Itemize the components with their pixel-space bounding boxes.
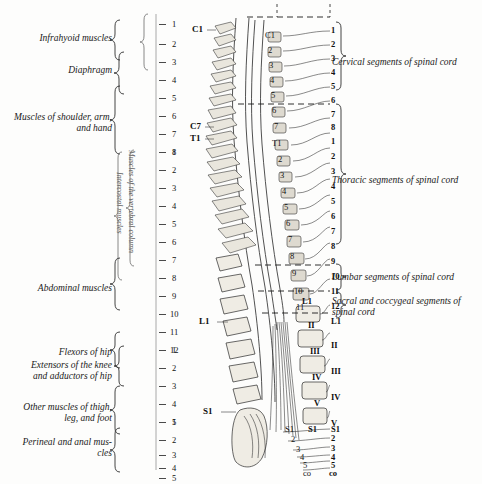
right-sacral-2: 2	[331, 433, 335, 443]
tick-c1	[159, 24, 166, 25]
tick-t11	[159, 332, 166, 333]
ruler-t4: 4	[172, 201, 176, 211]
right-thoracic-11: 11	[331, 286, 339, 296]
right-thoracic-12: 12	[331, 301, 340, 311]
spine-illustration	[206, 18, 327, 467]
tick-s1	[159, 422, 166, 423]
ruler-c7: 7	[172, 129, 176, 139]
right-cervical-8: 8	[331, 122, 335, 132]
right-cervical-7: 7	[331, 109, 335, 119]
ruler-t1: 1	[172, 147, 176, 157]
vertebra-label-iii: III	[310, 346, 320, 356]
cord-label-t7: 7	[288, 234, 292, 244]
ruler-c1: 1	[172, 19, 176, 29]
ruler-t6: 6	[172, 237, 176, 247]
cord-label-t3: 3	[280, 170, 284, 180]
vertebra-label-ii: II	[308, 320, 315, 330]
right-thoracic-10: 10	[331, 271, 340, 281]
ruler-t5: 5	[172, 219, 176, 229]
spine-callout-t1: T1	[190, 133, 201, 143]
right-thoracic-8: 8	[331, 241, 335, 251]
vertebra-label-v: V	[314, 398, 320, 408]
ruler-l3: 3	[172, 381, 176, 391]
tick-t3	[159, 188, 166, 189]
spine-callout-l1: L1	[199, 316, 210, 326]
right-thoracic-3: 3	[331, 166, 335, 176]
right-sacral-co: co	[329, 468, 337, 478]
cord-label-c4: 4	[270, 75, 274, 85]
cord-label-c7: 7	[274, 121, 278, 131]
right-cervical-1: 1	[331, 25, 335, 35]
spine-callout-c7: C7	[190, 121, 201, 131]
ruler-c6: 6	[172, 111, 176, 121]
right-lumbar-iii: III	[331, 366, 341, 376]
cord-label-c3: 3	[269, 60, 273, 70]
ruler-c4: 4	[172, 75, 176, 85]
right-cervical-4: 4	[331, 67, 335, 77]
ruler-l2: 2	[172, 363, 176, 373]
right-thoracic-7: 7	[331, 226, 335, 236]
ruler-t8: 8	[172, 273, 176, 283]
ruler-t11: 11	[170, 327, 178, 337]
spine-callout-c1: C1	[192, 24, 203, 34]
tick-t8	[159, 278, 166, 279]
cord-label-t2: 2	[278, 154, 282, 164]
tick-c7	[159, 134, 166, 135]
ruler-c2: 2	[172, 39, 176, 49]
figure-artwork	[0, 0, 482, 484]
ruler-s3: 3	[172, 450, 176, 460]
vertebra-label-iv: IV	[312, 372, 321, 382]
ruler-l1: 1	[172, 345, 176, 355]
tick-c2	[159, 44, 166, 45]
tick-c3	[159, 62, 166, 63]
cord-label-c2: 2	[268, 45, 272, 55]
tick-t2	[159, 170, 166, 171]
tick-l2	[159, 368, 166, 369]
right-thoracic-2: 2	[331, 151, 335, 161]
tick-l3	[159, 386, 166, 387]
right-thoracic-9: 9	[331, 256, 335, 266]
tick-s4	[159, 468, 166, 469]
tick-c4	[159, 80, 166, 81]
right-cervical-3: 3	[331, 53, 335, 63]
right-thoracic-6: 6	[331, 211, 335, 221]
ruler-l4: 4	[172, 399, 176, 409]
cord-label-t1: T1	[272, 138, 281, 148]
ruler-s4: 4	[172, 463, 176, 473]
cord-label-c5: 5	[271, 90, 275, 100]
cord-label-c1: C1	[265, 30, 275, 40]
ruler-t9: 9	[172, 291, 176, 301]
ruler-c3: 3	[172, 57, 176, 67]
right-thoracic-5: 5	[331, 196, 335, 206]
cauda-label-co: co	[303, 468, 311, 478]
cord-label-t5: 5	[284, 202, 288, 212]
right-lumbar-l1: L1	[331, 316, 341, 326]
anatomical-plate: Infrahyoid muscles Diaphragm Muscles of …	[0, 0, 482, 484]
vertebra-label-l1: L1	[302, 296, 312, 306]
cauda-label-2: 2	[291, 434, 295, 444]
spine-callout-s1: S1	[203, 406, 213, 416]
ruler-t3: 3	[172, 183, 176, 193]
tick-s2	[159, 440, 166, 441]
cauda-label-s1: S1	[285, 424, 294, 434]
cord-label-c6: 6	[272, 105, 276, 115]
tick-l4	[159, 404, 166, 405]
ruler-t2: 2	[172, 165, 176, 175]
ruler-t10: 10	[170, 309, 179, 319]
ruler-t7: 7	[172, 255, 176, 265]
right-lumbar-iv: IV	[331, 392, 340, 402]
tick-c6	[159, 116, 166, 117]
right-cervical-2: 2	[331, 39, 335, 49]
cord-label-t10: 10	[294, 286, 303, 296]
ruler-s1: 1	[172, 417, 176, 427]
tick-s5	[159, 478, 166, 479]
tick-t7	[159, 260, 166, 261]
tick-t5	[159, 224, 166, 225]
ruler-c5: 5	[172, 93, 176, 103]
cord-label-t4: 4	[282, 186, 286, 196]
left-brace-group	[110, 14, 148, 472]
tick-t4	[159, 206, 166, 207]
ruler-s2: 2	[172, 435, 176, 445]
right-lumbar-ii: II	[331, 340, 338, 350]
ruler-s5: 5	[172, 473, 176, 483]
